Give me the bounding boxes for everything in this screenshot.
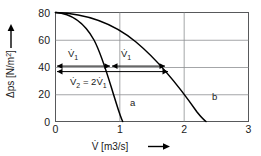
chart-container: 0 20 40 60 80 0 1 2 3 a b (0, 0, 261, 156)
y-tick-0: 0 (44, 116, 50, 128)
annotation-upper-row (57, 63, 165, 69)
x-tick-3: 3 (246, 123, 252, 135)
annotation-label-v1-second: V̇1 (121, 48, 131, 61)
x-axis-title-group: V̇ [m3/s] (92, 140, 170, 152)
y-axis-title-group: Δps [N/m2] (5, 24, 16, 98)
y-tick-40: 40 (38, 61, 50, 73)
arrow-left-head-seg1 (57, 63, 63, 69)
y-tick-20: 20 (38, 88, 50, 100)
annotation-lower-row (57, 69, 168, 75)
y-tick-60: 60 (38, 34, 50, 46)
x-tick-2: 2 (181, 123, 187, 135)
y-axis-title: Δps [N/m2] (5, 50, 16, 98)
arrow-right-head-seg1 (105, 63, 111, 69)
annotation-label-v1-first: V̇1 (68, 48, 78, 61)
x-axis-title: V̇ [m3/s] (92, 140, 129, 152)
y-tick-80: 80 (38, 7, 50, 19)
x-axis-tick-labels: 0 1 2 3 (53, 123, 252, 135)
annotation-label-v2-equals-2v1: V̇2 = 2V̇1 (70, 76, 107, 89)
y-axis-tick-labels: 0 20 40 60 80 (38, 7, 50, 128)
x-tick-1: 1 (117, 123, 123, 135)
curve-label-b: b (212, 91, 217, 102)
arrow-up-icon (8, 24, 15, 48)
arrow-left-head-seg2 (112, 63, 118, 69)
arrow-right-icon (148, 143, 170, 150)
plot-frame (56, 13, 249, 122)
x-tick-0: 0 (53, 123, 59, 135)
chart-plot: 0 20 40 60 80 0 1 2 3 a b (0, 0, 261, 156)
curve-label-a: a (130, 97, 136, 108)
curve-a (56, 13, 123, 122)
arrow-left-head-total (57, 69, 63, 75)
